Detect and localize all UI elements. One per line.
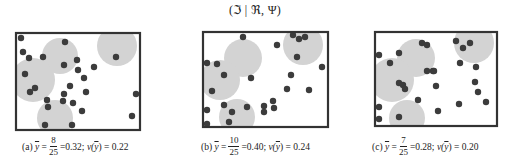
data-point — [460, 45, 466, 51]
panel-c-plot — [370, 23, 497, 136]
data-point — [69, 122, 75, 128]
panel-label: (b) — [201, 142, 212, 152]
data-point — [435, 108, 441, 114]
data-point — [40, 54, 46, 60]
panel-c-caption: (c) y = 7 25 =0.28; v(y) = 0.20 — [372, 136, 478, 157]
denominator: 25 — [229, 147, 238, 157]
data-point — [240, 34, 246, 40]
data-point — [62, 39, 68, 45]
data-point — [483, 99, 489, 105]
variance-value: ) = 0.22 — [98, 142, 128, 152]
data-point — [271, 105, 277, 111]
coverage-circle — [11, 58, 55, 102]
fraction: 10 25 — [228, 136, 239, 157]
data-point — [270, 98, 276, 104]
data-point — [79, 108, 85, 114]
data-point — [302, 34, 308, 40]
data-point — [74, 57, 80, 63]
data-point — [133, 91, 139, 97]
data-point — [81, 75, 87, 81]
fraction: 7 25 — [399, 136, 408, 157]
data-point — [387, 60, 393, 66]
data-point — [284, 86, 290, 92]
data-point — [248, 75, 254, 81]
data-point — [244, 104, 250, 110]
data-point — [424, 42, 430, 48]
data-point — [61, 62, 67, 68]
numerator: 8 — [50, 136, 57, 147]
coverage-circle — [389, 100, 425, 136]
data-point — [376, 116, 382, 122]
data-point — [42, 122, 48, 128]
data-point — [18, 35, 24, 41]
data-point — [288, 72, 294, 78]
denominator: 25 — [49, 147, 58, 157]
data-point — [467, 40, 473, 46]
data-point — [402, 86, 408, 92]
fraction: 8 25 — [49, 136, 58, 157]
ybar-symbol: y — [35, 142, 39, 152]
panel-b-plot — [200, 25, 328, 135]
data-point — [396, 114, 402, 120]
ybar-symbol: y — [214, 142, 218, 152]
data-point — [472, 79, 478, 85]
data-point — [229, 109, 235, 115]
data-point — [319, 64, 325, 70]
mean-value: =0.40; — [241, 142, 266, 152]
data-point — [261, 103, 267, 109]
variance-value: ) = 0.20 — [448, 142, 478, 152]
data-point — [209, 88, 215, 94]
numerator: 7 — [400, 136, 407, 147]
variance-label: v( — [268, 142, 275, 152]
data-point — [204, 60, 210, 66]
ybar-symbol: y — [385, 142, 389, 152]
variance-value: ) = 0.24 — [280, 142, 310, 152]
data-point — [61, 91, 67, 97]
data-point — [44, 97, 50, 103]
data-point — [32, 85, 38, 91]
data-point — [261, 109, 267, 115]
data-point — [91, 64, 97, 70]
panel-a-caption: (a) y = 8 25 =0.32; v(y) = 0.22 — [22, 136, 128, 157]
data-point — [221, 102, 227, 108]
panel-a-plot — [11, 26, 140, 136]
data-point — [27, 89, 33, 95]
data-point — [20, 49, 26, 55]
data-point — [475, 89, 481, 95]
panel-b-caption: (b) y = 10 25 =0.40; v(y) = 0.24 — [201, 136, 310, 157]
data-point — [83, 89, 89, 95]
data-point — [60, 98, 66, 104]
data-point — [129, 113, 135, 119]
data-point — [45, 104, 51, 110]
data-point — [22, 71, 28, 77]
data-point — [26, 55, 32, 61]
data-point — [376, 52, 382, 58]
data-point — [457, 60, 463, 66]
data-point — [70, 100, 76, 106]
data-point — [113, 54, 119, 60]
data-point — [214, 61, 220, 67]
data-point — [433, 83, 439, 89]
data-point — [67, 83, 73, 89]
data-point — [75, 67, 81, 73]
coverage-circle — [454, 23, 494, 63]
mean-value: =0.32; — [60, 142, 85, 152]
data-point — [453, 38, 459, 44]
data-point — [376, 104, 382, 110]
data-point — [396, 50, 402, 56]
panel-label: (c) — [372, 142, 383, 152]
data-point — [204, 107, 210, 113]
data-point — [226, 119, 232, 125]
denominator: 25 — [399, 147, 408, 157]
numerator: 10 — [228, 136, 239, 147]
data-point — [415, 97, 421, 103]
mean-value: =0.28; — [410, 142, 435, 152]
data-point — [431, 68, 437, 74]
data-point — [274, 42, 280, 48]
data-point — [221, 72, 227, 78]
data-point — [456, 101, 462, 107]
panel-label: (a) — [22, 142, 33, 152]
data-point — [424, 68, 430, 74]
data-point — [294, 54, 300, 60]
data-point — [296, 36, 302, 42]
